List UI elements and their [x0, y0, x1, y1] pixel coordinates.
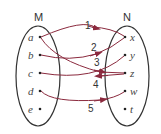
dot-e	[39, 108, 42, 111]
arrow-3-a-to-z	[41, 38, 124, 73]
element-t: t	[130, 103, 134, 115]
dot-d	[39, 90, 42, 93]
arrow-label-2: 2	[91, 42, 97, 53]
element-c: c	[28, 67, 33, 79]
dot-t	[124, 108, 127, 111]
dot-x	[124, 36, 127, 39]
element-x: x	[129, 31, 135, 43]
element-z: z	[129, 67, 135, 79]
set-m-label: M	[34, 11, 43, 23]
arrow-label-1: 1	[85, 20, 91, 31]
element-a: a	[28, 31, 34, 43]
arrow-label-4: 4	[93, 79, 99, 90]
dot-z	[124, 72, 127, 75]
set-n-label: N	[123, 11, 131, 23]
element-w: w	[130, 85, 138, 97]
dot-c	[39, 72, 42, 75]
arrow-5-d-to-w	[41, 91, 124, 101]
dot-w	[124, 90, 127, 93]
arrow-label-3: 3	[94, 57, 100, 68]
dot-b	[39, 54, 42, 57]
dot-y	[124, 54, 127, 57]
set-n-ellipse	[105, 26, 149, 126]
arrow-label-5: 5	[88, 103, 94, 114]
set-m-ellipse	[16, 26, 60, 126]
element-b: b	[28, 49, 34, 61]
mapping-diagram: M N a b c d e x y z w t	[0, 0, 161, 134]
element-e: e	[28, 103, 33, 115]
element-y: y	[129, 49, 135, 61]
dot-a	[39, 36, 42, 39]
element-d: d	[28, 85, 34, 97]
arrow-2-b-to-x	[41, 54, 96, 58]
